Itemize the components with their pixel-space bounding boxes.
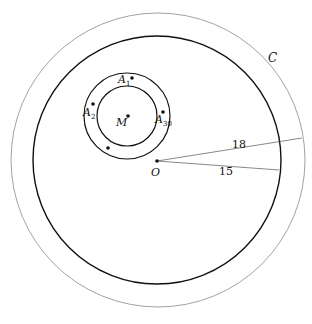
- point-unlabeled: [106, 146, 110, 150]
- radius-line-15: [157, 161, 279, 170]
- diagram-canvas: C O M A1 A2 A30 18 15: [0, 0, 312, 324]
- label-a1: A1: [117, 73, 130, 88]
- label-radius-15: 15: [219, 165, 233, 178]
- label-a2: A2: [82, 106, 95, 121]
- label-o: O: [151, 166, 160, 179]
- label-a30: A30: [154, 113, 172, 128]
- point-a2: [91, 102, 95, 106]
- label-m: M: [115, 116, 128, 129]
- label-radius-18: 18: [232, 138, 246, 151]
- point-a1: [130, 76, 134, 80]
- label-c: C: [268, 51, 277, 65]
- point-o: [155, 159, 159, 163]
